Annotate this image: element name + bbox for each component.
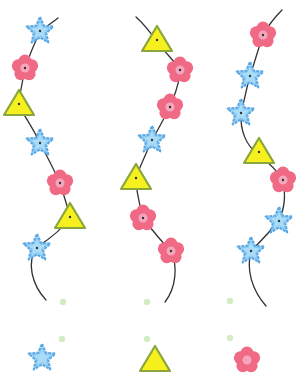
star-bead-icon — [27, 17, 54, 42]
triangle-bead-icon — [121, 164, 151, 189]
flower-bead-icon — [130, 205, 156, 231]
triangle-bead-icon — [244, 138, 274, 163]
connect-dot[interactable] — [59, 336, 65, 342]
flower-bead-icon — [47, 170, 73, 196]
bead-pattern-worksheet — [0, 0, 306, 382]
flower-bead-icon — [270, 167, 296, 193]
connect-dot[interactable] — [227, 298, 233, 304]
star-bead-icon — [228, 99, 255, 124]
strings-layer — [18, 10, 284, 306]
flower-bead-icon — [12, 55, 38, 81]
beads-layer — [4, 17, 296, 263]
triangle-bead-icon — [142, 26, 172, 51]
connect-dot[interactable] — [227, 335, 233, 341]
connect-dot[interactable] — [144, 299, 150, 305]
flower-bead-icon — [167, 57, 193, 83]
flower-bead-icon — [250, 22, 276, 48]
star-bead-icon — [139, 126, 166, 151]
star-bead-icon — [237, 62, 264, 87]
star-bead-icon — [266, 207, 293, 232]
connect-dot[interactable] — [144, 336, 150, 342]
triangle-bead-icon — [4, 90, 34, 115]
connect-dot[interactable] — [60, 299, 66, 305]
answer-choices-layer — [29, 344, 260, 372]
star-bead-icon — [24, 234, 51, 259]
flower-bead-icon — [157, 94, 183, 120]
triangle-bead-icon — [55, 203, 85, 228]
answer-triangle-icon[interactable] — [140, 346, 170, 371]
dots-layer — [59, 298, 233, 342]
answer-star-icon[interactable] — [29, 344, 56, 369]
star-bead-icon — [27, 129, 54, 154]
answer-flower-icon[interactable] — [234, 347, 260, 373]
